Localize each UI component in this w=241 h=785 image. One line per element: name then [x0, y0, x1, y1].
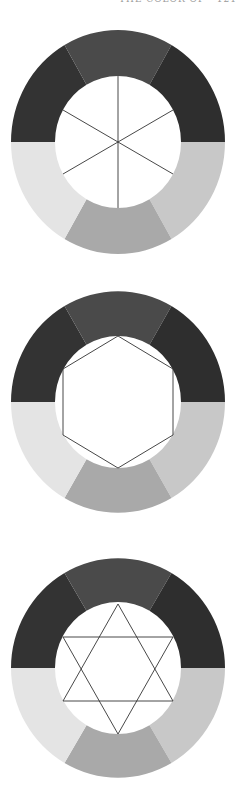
wheel-ring [11, 291, 225, 513]
triangle-up [63, 604, 173, 701]
running-head: THE COLOR OF · 121 [119, 0, 237, 4]
color-wheels-figure [0, 0, 241, 785]
wheel-ring [11, 558, 225, 777]
color-wheel-hexagram [11, 558, 225, 777]
hexagon-overlay [63, 336, 173, 468]
hexagram-overlay [63, 604, 173, 734]
color-wheel-spokes [11, 30, 225, 254]
spokes-overlay [63, 76, 173, 208]
color-wheel-hexagon [11, 291, 225, 513]
triangle-down [63, 637, 173, 734]
